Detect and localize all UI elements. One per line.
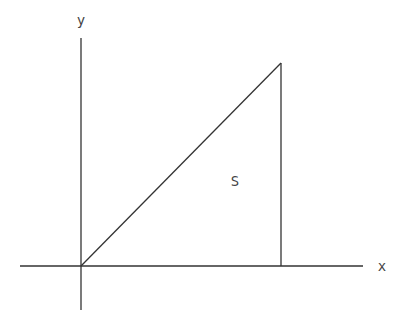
triangle-hypotenuse [81,63,281,266]
x-axis-label: x [378,258,386,274]
region-label-s: S [231,173,239,189]
diagram-canvas: y x S [0,0,408,318]
y-axis-label: y [77,12,85,28]
